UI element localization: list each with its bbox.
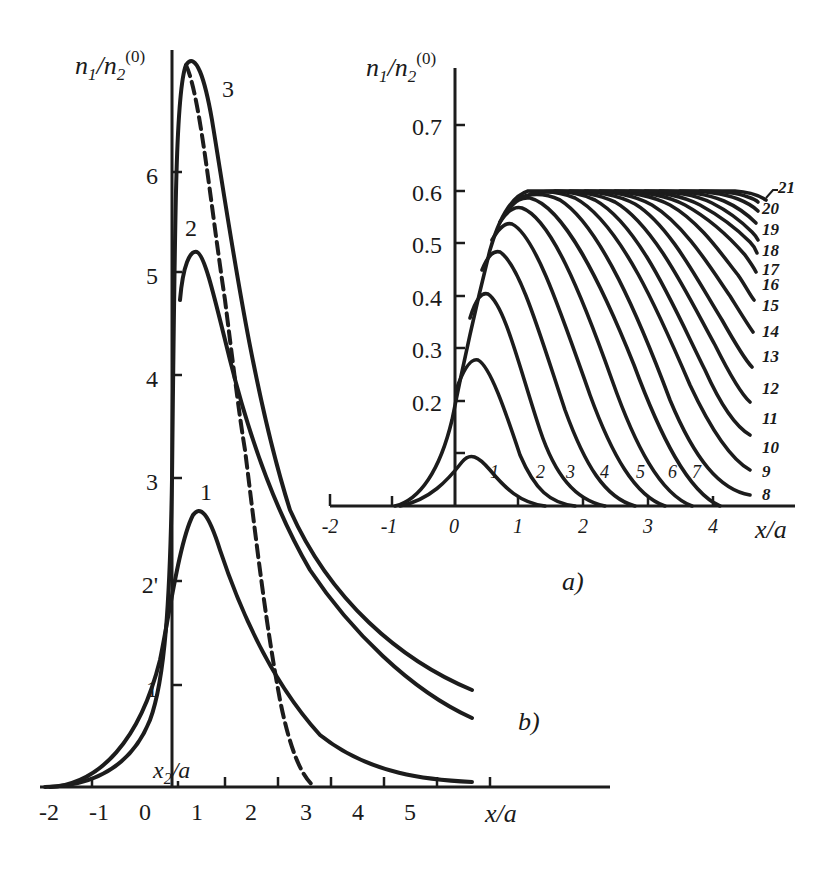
panel-a-ytick: 0.6: [412, 180, 442, 206]
panel-b-curve-2: [180, 252, 472, 718]
panel-a-curve-label: 19: [762, 220, 780, 239]
panel-a-x-label: x/a: [754, 515, 787, 544]
panel-b-xtick: 2: [245, 799, 257, 825]
panel-a-xtick: -2: [322, 515, 339, 537]
panel-a-curve-label: 3: [565, 462, 575, 482]
panel-a-curve-label: 15: [762, 296, 780, 315]
panel-a-curve-label: 7: [692, 462, 702, 482]
panel-a-curve-label: 18: [762, 241, 780, 260]
panel-b-x2-annotation: x2/a: [152, 757, 190, 787]
panel-b: 1 2' 3 4 5 6 n1/n2(0) -2 -1 0 1 2 3 4 5 …: [39, 47, 610, 828]
panel-a-curve-label: 2: [536, 462, 545, 482]
panel-b-curve-label-2: 2: [185, 215, 197, 241]
panel-a-curve-label: 16: [762, 275, 780, 294]
panel-a-ytick: 0.2: [412, 390, 442, 416]
panel-a-xtick: 0: [449, 515, 459, 537]
panel-a-curve-label: 11: [762, 409, 778, 428]
panel-a-xtick: 2: [578, 515, 588, 537]
panel-a-curve-label: 21: [777, 178, 795, 197]
panel-a-curve-label: 20: [761, 199, 780, 218]
panel-a-curve-label: 8: [762, 485, 771, 504]
panel-a-ytick: 0.5: [412, 232, 442, 258]
panel-b-ytick: 6: [146, 163, 158, 189]
panel-a-xtick: 4: [708, 515, 718, 537]
panel-a-curve-label: 4: [600, 462, 609, 482]
panel-a-xtick: -1: [381, 515, 398, 537]
panel-a-curve-label: 6: [668, 462, 677, 482]
panel-a-ytick: 0.7: [412, 114, 442, 140]
panel-a-curve-label: 9: [762, 462, 771, 481]
panel-a: 0.2 0.3 0.4 0.5 0.6 0.7 n1/n2(0) -2 -1 0…: [322, 49, 795, 596]
panel-a-curve-label: 13: [762, 347, 780, 366]
panel-b-ytick: 3: [146, 469, 158, 495]
panel-b-xtick: 4: [352, 799, 364, 825]
panel-a-curve-7: [508, 198, 720, 506]
panel-a-curve-label: 10: [762, 438, 780, 457]
panel-a-label: a): [562, 567, 584, 596]
figure: 1 2' 3 4 5 6 n1/n2(0) -2 -1 0 1 2 3 4 5 …: [0, 0, 838, 878]
panel-a-curve-9: [530, 192, 750, 470]
panel-b-xtick: -1: [89, 799, 109, 825]
panel-a-curve-label: 5: [636, 462, 645, 482]
panel-a-xtick: 1: [513, 515, 523, 537]
panel-b-xtick: 5: [404, 799, 416, 825]
panel-b-ytick: 5: [146, 263, 158, 289]
panel-a-xtick: 3: [642, 515, 653, 537]
panel-b-y-label: n1/n2(0): [75, 47, 145, 84]
panel-b-xtick: 3: [300, 799, 312, 825]
panel-a-ytick: 0.3: [412, 337, 442, 363]
panel-b-ytick: 4: [146, 366, 158, 392]
panel-a-curve-label: 14: [762, 322, 779, 341]
panel-b-curve-label-1: 1: [200, 479, 212, 505]
panel-a-y-label: n1/n2(0): [366, 49, 436, 86]
panel-a-curve-label: 12: [762, 379, 780, 398]
panel-b-label: b): [518, 707, 540, 736]
panel-a-ytick: 0.4: [412, 285, 442, 311]
panel-b-x-label: x/a: [484, 799, 517, 828]
panel-b-curve-1: [50, 511, 472, 787]
panel-b-xtick: 1: [191, 799, 203, 825]
panel-b-curve-label-3: 3: [222, 76, 234, 102]
panel-a-curve-label: 1: [490, 462, 499, 482]
panel-b-ytick: 2': [142, 572, 158, 598]
panel-b-xtick: -2: [39, 799, 59, 825]
panel-b-xtick: 0: [139, 799, 151, 825]
